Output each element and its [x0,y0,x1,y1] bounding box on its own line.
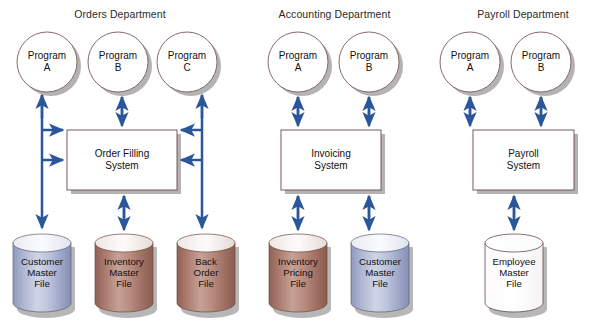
data-file-cylinders [13,234,543,312]
department-title-orders: Orders Department [0,8,240,20]
system-boxes [67,130,574,190]
payroll-program-b-circle[interactable] [511,32,571,92]
order-filling-system-box[interactable] [67,130,177,190]
diagram-canvas [0,0,594,321]
program-circles [17,32,571,92]
orders-program-b-circle[interactable] [88,32,148,92]
customer-master-file-cylinder[interactable] [13,234,71,312]
department-title-payroll: Payroll Department [452,8,594,20]
accounting-customer-master-file-cylinder[interactable] [351,234,409,312]
orders-program-c-circle[interactable] [157,32,217,92]
employee-master-file-cylinder[interactable] [485,234,543,312]
accounting-program-b-circle[interactable] [339,32,399,92]
department-title-accounting: Accounting Department [262,8,407,20]
inventory-pricing-file-cylinder[interactable] [269,234,327,312]
orders-program-a-circle[interactable] [17,32,77,92]
inventory-master-file-cylinder[interactable] [95,234,153,312]
payroll-program-a-circle[interactable] [440,32,500,92]
accounting-program-a-circle[interactable] [268,32,328,92]
back-order-file-cylinder[interactable] [177,234,235,312]
payroll-system-box[interactable] [473,130,574,190]
legacy-systems-diagram: Orders Department Accounting Department … [0,0,594,321]
invoicing-system-box[interactable] [281,130,381,190]
